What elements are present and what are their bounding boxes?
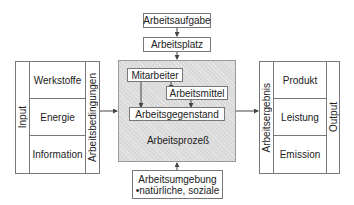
output-item: Produkt: [274, 62, 326, 99]
environment-detail: •natürliche, soziale: [136, 185, 220, 196]
process-box: Mitarbeiter Arbeitsmittel Arbeitsgegenst…: [118, 60, 236, 162]
workplace-box: Arbeitsplatz: [143, 37, 211, 52]
conditions-cell: Arbeitsbedingungen: [85, 62, 99, 173]
employee-box: Mitarbeiter: [127, 68, 183, 82]
output-item: Leistung: [274, 99, 326, 136]
task-label: Arbeitsaufgabe: [143, 15, 210, 26]
input-block: Input Werkstoffe Energie Information Arb…: [15, 61, 100, 174]
output-label: Output: [328, 102, 339, 132]
employee-label: Mitarbeiter: [131, 70, 178, 81]
result-label: Arbeitsergebnis: [261, 83, 272, 152]
object-label: Arbeitsgegenstand: [135, 109, 218, 120]
output-item: Emission: [274, 136, 326, 173]
input-item: Information: [30, 136, 85, 173]
input-label: Input: [17, 106, 28, 128]
environment-box: Arbeitsumgebung •natürliche, soziale: [132, 170, 223, 199]
input-item: Energie: [30, 99, 85, 136]
output-label-cell: Output: [326, 62, 339, 173]
conditions-label: Arbeitsbedingungen: [87, 73, 98, 162]
output-item-label: Emission: [280, 149, 321, 160]
input-item-label: Information: [32, 149, 82, 160]
input-item-label: Werkstoffe: [34, 75, 81, 86]
output-block: Arbeitsergebnis Produkt Leistung Emissio…: [259, 61, 340, 174]
tools-box: Arbeitsmittel: [166, 86, 228, 100]
input-item-label: Energie: [40, 112, 74, 123]
object-box: Arbeitsgegenstand: [129, 107, 225, 121]
environment-title: Arbeitsumgebung: [138, 174, 216, 185]
input-label-cell: Input: [16, 62, 30, 173]
task-box: Arbeitsaufgabe: [143, 13, 211, 28]
output-item-label: Leistung: [281, 112, 319, 123]
workplace-label: Arbeitsplatz: [151, 39, 203, 50]
tools-label: Arbeitsmittel: [169, 88, 224, 99]
process-label: Arbeitsprozeß: [119, 135, 237, 146]
result-cell: Arbeitsergebnis: [260, 62, 274, 173]
input-item: Werkstoffe: [30, 62, 85, 99]
output-item-label: Produkt: [283, 75, 317, 86]
